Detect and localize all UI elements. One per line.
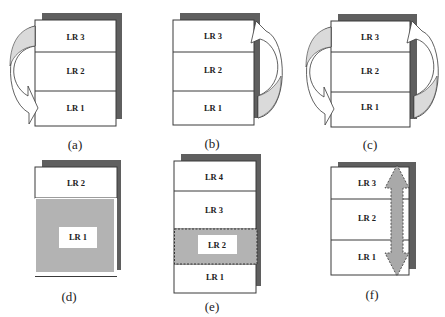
layer-label-lr1: LR 1 (206, 272, 224, 282)
layer-label-lr1: LR 1 (66, 103, 84, 113)
layer-label-lr1: LR 1 (204, 103, 222, 113)
layer-label-lr3: LR 3 (358, 178, 376, 188)
panel-caption: (d) (61, 289, 76, 304)
layer-label-lr4: LR 4 (205, 172, 224, 182)
layer-label-lr3: LR 3 (361, 32, 379, 42)
layer-label-lr2: LR 2 (67, 178, 85, 188)
curved-arrow-left-icon (10, 26, 38, 124)
panel-f: LR 3 LR 2 LR 1 (f) (331, 162, 416, 302)
panel-caption: (c) (363, 137, 377, 152)
layer-diagram-figure: LR 3 LR 2 LR 1 (a) LR 3 LR 2 LR 1 (b) LR… (0, 0, 445, 317)
panel-caption: (a) (68, 137, 82, 152)
panel-e: LR 4 LR 3 LR 2 LR 1 (e) (174, 154, 261, 314)
panel-caption: (b) (204, 136, 219, 151)
panel-caption: (e) (205, 299, 219, 314)
panel-d: LR 2 LR 1 (d) (35, 160, 121, 304)
panel-c: LR 3 LR 2 LR 1 (c) (306, 14, 438, 152)
panel-caption: (f) (366, 287, 379, 302)
layer-label-lr1: LR 1 (69, 232, 87, 242)
layer-label-lr2: LR 2 (66, 66, 84, 76)
layer-label-lr2: LR 2 (204, 65, 222, 75)
layer-label-lr3: LR 3 (205, 205, 223, 215)
layer-label-lr2: LR 2 (361, 66, 379, 76)
layer-label-lr1: LR 1 (358, 252, 376, 262)
layer-label-lr2: LR 2 (208, 240, 226, 250)
layer-label-lr1: LR 1 (361, 102, 379, 112)
panel-a: LR 3 LR 2 LR 1 (a) (10, 13, 122, 152)
layer-label-lr3: LR 3 (66, 32, 84, 42)
layer-label-lr3: LR 3 (204, 31, 222, 41)
curved-arrow-left-icon (306, 27, 334, 125)
panel-b: LR 3 LR 2 LR 1 (b) (173, 13, 282, 151)
layer-label-lr2: LR 2 (358, 213, 376, 223)
